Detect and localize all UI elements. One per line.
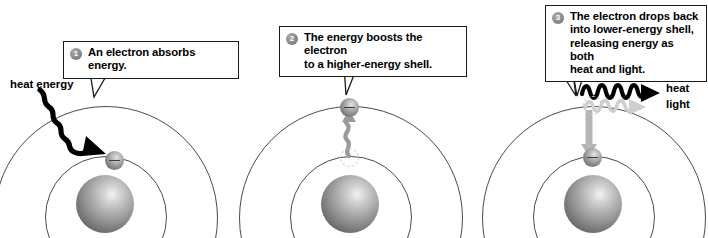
nucleus (76, 175, 134, 233)
callout-step-2: 2 The energy boosts the electron to a hi… (279, 26, 467, 77)
callout-text-1: An electron absorbs energy. (88, 46, 231, 73)
step-badge-3: 3 (552, 12, 564, 24)
electron (340, 98, 359, 117)
nucleus (564, 175, 622, 233)
callout-text-3: The electron drops back into lower-energ… (570, 10, 699, 76)
step-badge-1: 1 (70, 48, 82, 60)
callout-text-2: The energy boosts the electron to a high… (304, 31, 459, 71)
light-label: light (666, 98, 690, 111)
heat-energy-label: heat energy (10, 78, 73, 91)
callout-step-1: 1 An electron absorbs energy. (63, 41, 239, 79)
electron (583, 148, 602, 167)
step-badge-2: 2 (286, 33, 298, 45)
nucleus (321, 175, 379, 233)
heat-label: heat (666, 82, 689, 95)
callout-step-3: 3 The electron drops back into lower-ene… (545, 5, 707, 82)
electron (105, 151, 124, 170)
electron-energy-diagram: heat energy 1 An electron absorbs energy… (0, 0, 708, 238)
ghost-electron (340, 148, 359, 167)
